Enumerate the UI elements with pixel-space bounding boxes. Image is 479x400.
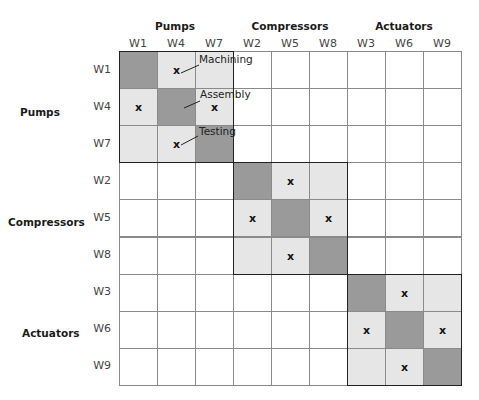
matrix-cell [195, 162, 234, 200]
dependency-mark: x [120, 101, 157, 114]
dependency-mark: x [272, 175, 309, 188]
matrix-cell [195, 199, 234, 237]
row-label: W7 [81, 137, 111, 150]
matrix-cell [347, 88, 386, 126]
column-label: W8 [309, 37, 347, 50]
matrix-cell [195, 274, 234, 312]
dependency-mark: x [158, 138, 195, 151]
matrix-cell [423, 162, 462, 200]
row-group-label: Compressors [8, 216, 85, 228]
matrix-cell [385, 88, 424, 126]
matrix-cell [271, 88, 310, 126]
row-label: W4 [81, 100, 111, 113]
dependency-mark: x [310, 212, 347, 225]
matrix-cell [423, 237, 462, 275]
matrix-cell [119, 125, 158, 163]
matrix-cell [271, 348, 310, 386]
matrix-cell [195, 237, 234, 275]
matrix-cell [309, 237, 348, 275]
matrix-cell [309, 88, 348, 126]
matrix-cell [309, 311, 348, 349]
matrix-cell [309, 274, 348, 312]
matrix-cell [271, 274, 310, 312]
dependency-mark: x [386, 286, 423, 299]
row-label: W5 [81, 211, 111, 224]
column-label: W6 [385, 37, 423, 50]
matrix-cell [347, 274, 386, 312]
matrix-cell [157, 88, 196, 126]
matrix-cell: x [423, 311, 462, 349]
row-label: W8 [81, 248, 111, 261]
dependency-mark: x [424, 323, 461, 336]
dependency-mark: x [272, 249, 309, 262]
matrix-cell [385, 162, 424, 200]
matrix-cell [157, 274, 196, 312]
matrix-cell: x [271, 237, 310, 275]
matrix-cell: x [271, 162, 310, 200]
matrix-cell [157, 199, 196, 237]
matrix-cell [347, 162, 386, 200]
dependency-mark: x [386, 360, 423, 373]
column-label: W3 [347, 37, 385, 50]
row-group-label: Actuators [22, 327, 80, 339]
matrix-cell: x [157, 51, 196, 89]
matrix-cell [119, 348, 158, 386]
matrix-cell: x [157, 125, 196, 163]
dependency-mark: x [158, 64, 195, 77]
matrix-cell [271, 199, 310, 237]
matrix-cell [385, 199, 424, 237]
matrix-cell [423, 348, 462, 386]
matrix-cell [309, 125, 348, 163]
column-group-label: Pumps [155, 20, 195, 32]
matrix-cell [385, 125, 424, 163]
matrix-cell [195, 348, 234, 386]
column-label: W4 [157, 37, 195, 50]
matrix-cell [157, 311, 196, 349]
matrix-cell [347, 125, 386, 163]
matrix-cell [309, 51, 348, 89]
matrix-cell [309, 348, 348, 386]
column-group-label: Compressors [252, 20, 329, 32]
matrix-cell [119, 199, 158, 237]
row-label: W2 [81, 174, 111, 187]
matrix-cell [385, 237, 424, 275]
column-label: W1 [119, 37, 157, 50]
matrix-cell [423, 199, 462, 237]
matrix-cell [119, 237, 158, 275]
matrix-cell: x [385, 348, 424, 386]
matrix-cell [119, 51, 158, 89]
matrix-cell [119, 274, 158, 312]
matrix-cell [233, 162, 272, 200]
matrix-cell [423, 51, 462, 89]
dependency-mark: x [348, 323, 385, 336]
row-group-label: Pumps [20, 106, 60, 118]
matrix-cell [385, 51, 424, 89]
matrix-cell [309, 162, 348, 200]
matrix-cell [271, 125, 310, 163]
column-label: W2 [233, 37, 271, 50]
dependency-mark: x [234, 212, 271, 225]
dependency-mark: x [196, 101, 233, 114]
matrix-cell [347, 237, 386, 275]
matrix-cell [347, 199, 386, 237]
matrix-cell [233, 311, 272, 349]
matrix-cell [385, 311, 424, 349]
column-label: W9 [423, 37, 461, 50]
matrix-cell: x [119, 88, 158, 126]
matrix-cell [119, 311, 158, 349]
matrix-cell [157, 162, 196, 200]
annotation-label: Testing [199, 125, 236, 137]
matrix-cell [423, 274, 462, 312]
matrix-cell [157, 348, 196, 386]
matrix-cell [233, 348, 272, 386]
column-group-label: Actuators [375, 20, 433, 32]
matrix-cell: x [347, 311, 386, 349]
matrix-cell [233, 125, 272, 163]
matrix-cell [195, 311, 234, 349]
matrix-cell: x [233, 199, 272, 237]
matrix-cell [271, 51, 310, 89]
column-label: W5 [271, 37, 309, 50]
matrix-cell [423, 88, 462, 126]
row-label: W6 [81, 322, 111, 335]
matrix-cell [233, 237, 272, 275]
